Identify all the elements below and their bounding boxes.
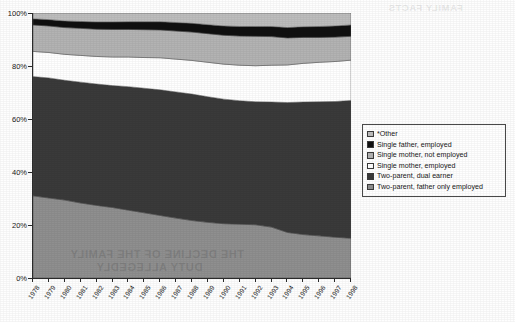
y-axis-tick-label: 60% [0,115,27,124]
legend-item[interactable]: Two-parent, dual earner [367,171,502,181]
legend-item-label: Single father, employed [377,141,452,149]
x-axis-tick-label: 1992 [249,284,263,300]
x-axis-tick-label: 1978 [26,284,40,300]
chart-legend: *OtherSingle father, employedSingle moth… [362,124,506,197]
bleed-through-text-top: FAMILY FACTS [388,2,463,13]
x-axis-tick-label: 1983 [106,284,120,300]
x-axis-tick-label: 1998 [344,284,358,300]
legend-swatch-icon [367,141,374,148]
x-axis-tick-label: 1988 [185,284,199,300]
x-axis-tick-label: 1982 [90,284,104,300]
legend-item-label: Single mother, not employed [377,151,467,159]
x-axis-tick-label: 1993 [265,284,279,300]
x-axis-tick-label: 1981 [74,284,88,300]
x-axis-tick-label: 1985 [138,284,152,300]
legend-item-label: *Other [377,130,398,138]
stacked-area-svg [33,13,351,278]
x-axis-tick-label: 1994 [281,284,295,300]
x-axis-tick-label: 1986 [154,284,168,300]
x-axis-tick-label: 1995 [297,284,311,300]
x-axis-tick-label: 1979 [42,284,56,300]
chart-page: 0%20%40%60%80%100% 197819791980198119821… [0,0,515,322]
x-axis-tick-label: 1987 [170,284,184,300]
legend-item-label: Two-parent, dual earner [377,172,453,180]
x-axis-tick-label: 1980 [58,284,72,300]
legend-item[interactable]: *Other [367,129,502,139]
x-axis-tick-label: 1996 [313,284,327,300]
x-axis-tick-label: 1990 [217,284,231,300]
x-axis-tick-label: 1997 [329,284,343,300]
x-axis-tick-label: 1984 [122,284,136,300]
legend-item[interactable]: Single mother, not employed [367,150,502,160]
x-axis-tick-label: 1991 [233,284,247,300]
legend-item[interactable]: Single mother, employed [367,161,502,171]
y-axis-tick-label: 20% [0,221,27,230]
legend-swatch-icon [367,152,374,159]
legend-swatch-icon [367,163,374,170]
plot-area [32,13,351,279]
legend-item-label: Single mother, employed [377,162,456,170]
y-axis-tick-label: 100% [0,9,27,18]
legend-swatch-icon [367,173,374,180]
y-axis-tick-label: 40% [0,168,27,177]
y-axis-tick-label: 0% [0,274,27,283]
legend-item[interactable]: Single father, employed [367,140,502,150]
x-axis-tick-label: 1989 [201,284,215,300]
legend-item-label: Two-parent, father only employed [377,183,483,191]
legend-swatch-icon [367,184,374,191]
legend-swatch-icon [367,131,374,138]
legend-item[interactable]: Two-parent, father only employed [367,182,502,192]
y-axis-tick-label: 80% [0,62,27,71]
